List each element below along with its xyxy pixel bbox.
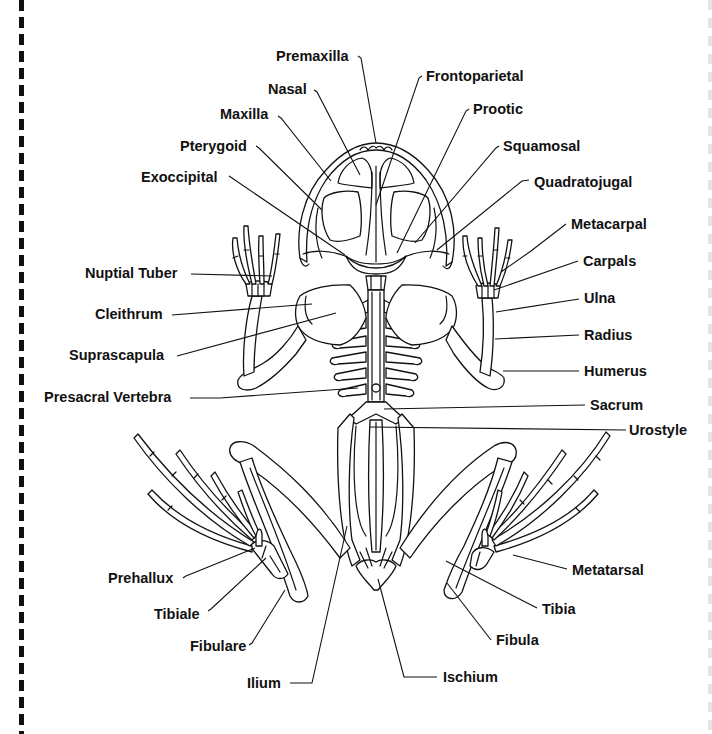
label-cleithrum: Cleithrum bbox=[95, 304, 312, 322]
frog-skeleton-diagram: PremaxillaNasalMaxillaPterygoidExoccipit… bbox=[0, 0, 712, 734]
ulna-leader-line bbox=[496, 299, 579, 312]
label-fibulare: Fibulare bbox=[190, 590, 285, 654]
humerus-label-text: Humerus bbox=[584, 363, 647, 379]
label-tibiale: Tibiale bbox=[154, 558, 266, 622]
left-arm bbox=[233, 226, 306, 390]
label-radius: Radius bbox=[495, 327, 632, 343]
cleithrum-leader-line bbox=[172, 304, 312, 315]
squamosal-label-text: Squamosal bbox=[503, 138, 580, 154]
maxilla-leader-line bbox=[278, 116, 331, 181]
ischium-leader-line bbox=[378, 579, 437, 677]
suprascapula-label-text: Suprascapula bbox=[69, 347, 165, 363]
dashed-cut-line bbox=[19, 0, 24, 734]
sacrum-label-text: Sacrum bbox=[590, 397, 643, 413]
metatarsal-label-text: Metatarsal bbox=[572, 562, 644, 578]
tibiale-label-text: Tibiale bbox=[154, 606, 200, 622]
presacral-vertebra-leader-line bbox=[190, 388, 358, 398]
fibulare-leader-line bbox=[249, 590, 285, 645]
label-presacral-vertebra: Presacral Vertebra bbox=[44, 388, 358, 405]
label-sacrum: Sacrum bbox=[384, 397, 643, 413]
pterygoid-leader-line bbox=[256, 146, 322, 210]
ulna-label-text: Ulna bbox=[584, 290, 616, 306]
ischium-label-text: Ischium bbox=[443, 669, 498, 685]
sacrum-leader-line bbox=[384, 405, 585, 409]
urostyle-label-text: Urostyle bbox=[629, 422, 687, 438]
presacral-vertebra-label-text: Presacral Vertebra bbox=[44, 389, 172, 405]
tibiale-leader-line bbox=[208, 558, 266, 611]
label-humerus: Humerus bbox=[503, 363, 647, 379]
label-frontoparietal: Frontoparietal bbox=[376, 68, 523, 205]
pelvic-girdle bbox=[338, 414, 415, 590]
premaxilla-label-text: Premaxilla bbox=[276, 48, 349, 64]
label-metatarsal: Metatarsal bbox=[513, 555, 644, 578]
pterygoid-label-text: Pterygoid bbox=[180, 138, 247, 154]
radius-label-text: Radius bbox=[584, 327, 632, 343]
prehallux-leader-line bbox=[183, 548, 255, 578]
label-exoccipital: Exoccipital bbox=[141, 169, 345, 255]
page-edge bbox=[708, 0, 712, 734]
label-urostyle: Urostyle bbox=[370, 422, 687, 438]
exoccipital-label-text: Exoccipital bbox=[141, 169, 218, 185]
tibia-label-text: Tibia bbox=[542, 601, 577, 617]
prootic-label-text: Prootic bbox=[473, 101, 523, 117]
label-ischium: Ischium bbox=[378, 579, 498, 685]
frontoparietal-label-text: Frontoparietal bbox=[426, 68, 523, 84]
nuptial-tuber-label-text: Nuptial Tuber bbox=[85, 265, 178, 281]
label-ulna: Ulna bbox=[496, 290, 616, 312]
prehallux-label-text: Prehallux bbox=[108, 570, 173, 586]
skeleton-drawing bbox=[134, 143, 610, 602]
nasal-label-text: Nasal bbox=[268, 81, 307, 97]
quadratojugal-label-text: Quadratojugal bbox=[534, 174, 632, 190]
label-prehallux: Prehallux bbox=[108, 548, 255, 586]
metatarsal-leader-line bbox=[513, 555, 567, 569]
radius-leader-line bbox=[495, 335, 579, 339]
metacarpal-label-text: Metacarpal bbox=[571, 216, 647, 232]
ilium-label-text: Ilium bbox=[247, 675, 281, 691]
cleithrum-label-text: Cleithrum bbox=[95, 306, 163, 322]
label-carpals: Carpals bbox=[494, 253, 636, 290]
fibulare-label-text: Fibulare bbox=[190, 638, 246, 654]
squamosal-leader-line bbox=[415, 146, 499, 243]
label-nasal: Nasal bbox=[268, 81, 360, 175]
premaxilla-leader-line bbox=[358, 56, 376, 143]
skull bbox=[299, 143, 454, 274]
fibula-leader-line bbox=[447, 583, 491, 640]
maxilla-label-text: Maxilla bbox=[220, 106, 269, 122]
carpals-label-text: Carpals bbox=[583, 253, 636, 269]
fibula-label-text: Fibula bbox=[496, 632, 540, 648]
